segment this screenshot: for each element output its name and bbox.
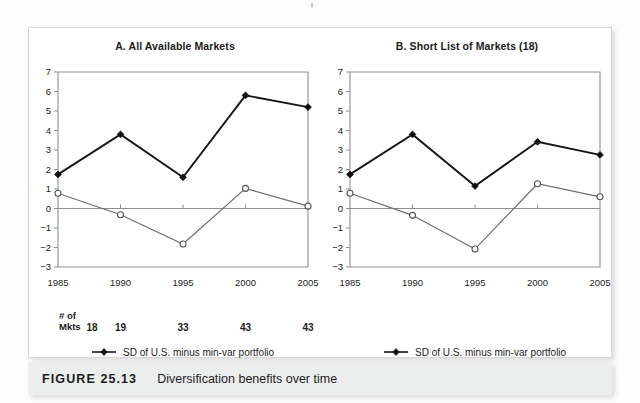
mkts-value: 18 [86,322,97,333]
figure-page: A. All Available Markets −3−2−1012345671… [0,0,640,403]
svg-text:2000: 2000 [235,277,256,288]
svg-text:1990: 1990 [110,277,131,288]
svg-text:5: 5 [338,105,343,116]
legend-item-min-var: SD of U.S. minus min-var portfolio [91,344,321,360]
svg-text:−1: −1 [40,222,51,233]
figure-number: FIGURE 25.13 [42,372,137,386]
svg-text:3: 3 [338,144,343,155]
svg-text:1995: 1995 [172,277,193,288]
figure-frame: A. All Available Markets −3−2−1012345671… [28,27,612,358]
svg-text:−1: −1 [332,222,343,233]
figure-caption-text: Diversification benefits over time [157,372,337,386]
svg-text:−3: −3 [332,261,343,272]
svg-text:1: 1 [46,183,51,194]
panel-a: A. All Available Markets −3−2−1012345671… [29,28,321,359]
svg-text:0: 0 [46,203,51,214]
svg-text:6: 6 [46,86,51,97]
mkts-row: # of Mkts 1819334343 [29,310,321,340]
panel-a-svg: −3−2−10123456719851990199520002005 [29,28,321,313]
svg-text:6: 6 [338,86,343,97]
svg-text:7: 7 [46,66,51,77]
panel-b: B. Short List of Markets (18) −3−2−10123… [321,28,613,359]
svg-text:2: 2 [46,164,51,175]
mkts-value: 43 [302,322,313,333]
svg-text:7: 7 [338,66,343,77]
mkts-value: 33 [177,322,188,333]
legend-label-min-var: SD of U.S. minus min-var portfolio [415,347,566,358]
svg-text:1985: 1985 [47,277,68,288]
svg-text:2005: 2005 [297,277,318,288]
mkts-header: # of Mkts [59,310,81,332]
svg-text:1985: 1985 [339,277,360,288]
figure-caption-bar: FIGURE 25.13 Diversification benefits ov… [28,362,612,395]
svg-text:2000: 2000 [527,277,548,288]
legend-label-min-var: SD of U.S. minus min-var portfolio [123,347,274,358]
svg-text:2: 2 [338,164,343,175]
svg-text:5: 5 [46,105,51,116]
legend-item-min-var: SD of U.S. minus min-var portfolio [383,344,613,360]
mkts-value: 43 [240,322,251,333]
svg-text:4: 4 [338,125,343,136]
scan-speck [311,3,313,8]
svg-text:0: 0 [338,203,343,214]
filled-diamond-line-icon [91,346,117,358]
mkts-value: 19 [115,322,126,333]
svg-text:3: 3 [46,144,51,155]
svg-text:−2: −2 [40,242,51,253]
svg-text:1990: 1990 [402,277,423,288]
svg-text:−2: −2 [332,242,343,253]
panel-b-plot: −3−2−10123456719851990199520002005 [321,28,613,359]
panel-b-svg: −3−2−10123456719851990199520002005 [321,28,613,313]
svg-text:4: 4 [46,125,51,136]
filled-diamond-line-icon [383,346,409,358]
mkts-header-line1: # of [59,310,76,321]
mkts-header-line2: Mkts [59,321,81,332]
svg-text:1: 1 [338,183,343,194]
svg-text:−3: −3 [40,261,51,272]
svg-text:1995: 1995 [464,277,485,288]
svg-text:2005: 2005 [589,277,610,288]
